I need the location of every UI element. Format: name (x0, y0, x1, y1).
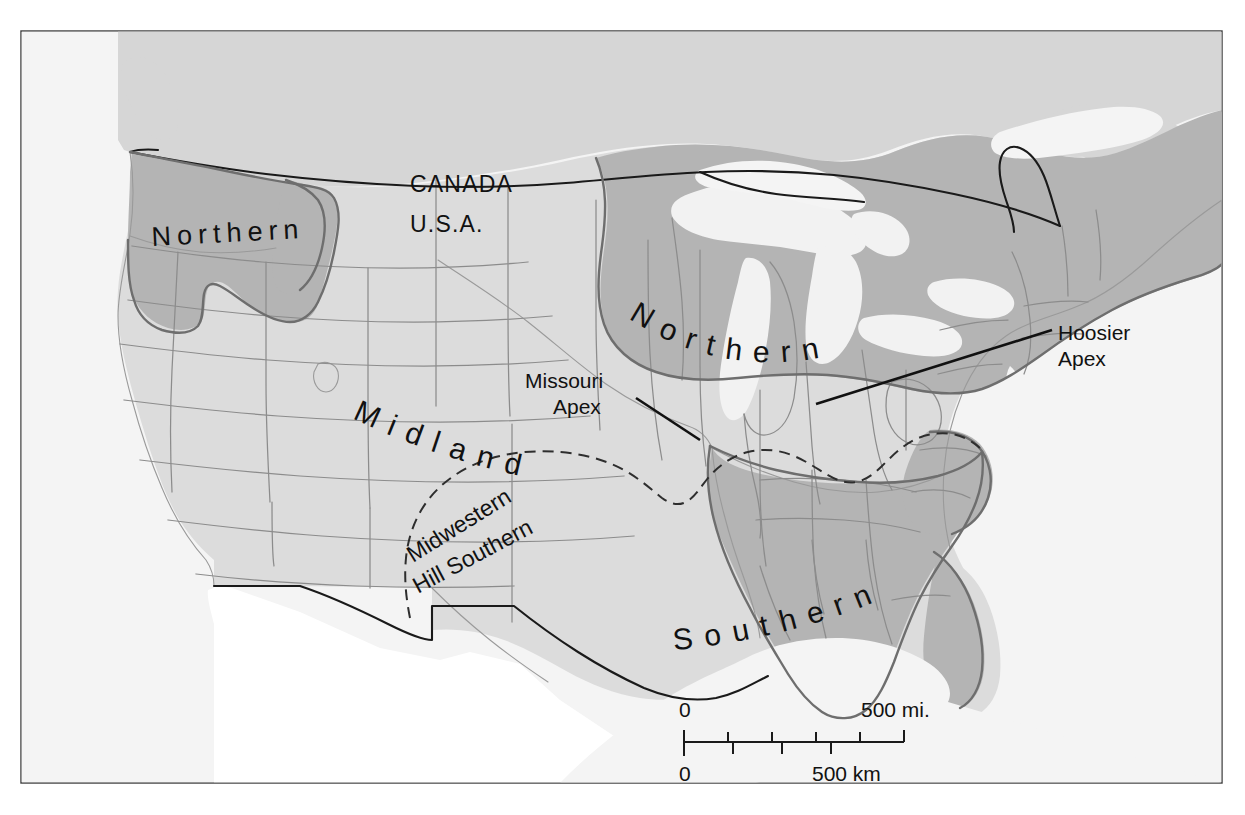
label-missouri-apex-line2: Apex (553, 395, 601, 418)
scale-label-km-max: 500 km (812, 762, 881, 785)
label-canada: CANADA (410, 171, 513, 197)
dialect-map: CANADA U.S.A. Northern Northern Midland (0, 0, 1245, 815)
label-missouri-apex-line1: Missouri (525, 369, 603, 392)
scale-label-mi-zero: 0 (679, 698, 691, 721)
map-canvas: CANADA U.S.A. Northern Northern Midland (0, 0, 1245, 815)
label-hoosier-apex-line1: Hoosier (1058, 321, 1130, 344)
label-usa: U.S.A. (410, 211, 484, 237)
label-hoosier-apex-line2: Apex (1058, 347, 1106, 370)
scale-label-mi-max: 500 mi. (861, 698, 930, 721)
scale-label-km-zero: 0 (679, 762, 691, 785)
